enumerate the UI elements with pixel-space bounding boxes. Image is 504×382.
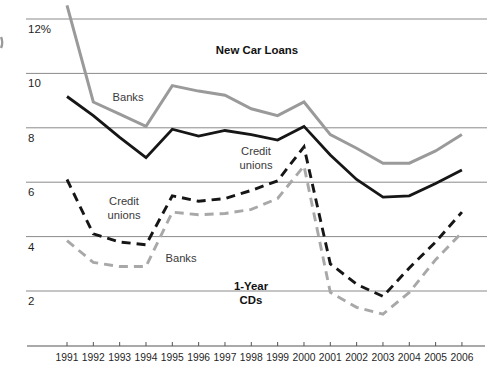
annotation-banks-new-car-label: Banks	[112, 91, 143, 103]
annotation-new-car-loans-title: New Car Loans	[216, 44, 298, 56]
scan-artifact	[1, 37, 2, 48]
year-label-2006: 2006	[450, 352, 473, 363]
y-axis-label-6: 6	[28, 186, 34, 198]
year-label-1992: 1992	[82, 352, 105, 363]
year-label-2005: 2005	[424, 352, 447, 363]
y-axis-label-4: 4	[28, 241, 35, 253]
annotation-credit-unions-new-car-label: Creditunions	[240, 145, 273, 171]
annotation-banks-cd-label: Banks	[165, 252, 196, 264]
year-label-1994: 1994	[135, 352, 158, 363]
interest-rates-figure: 12%1086421991199219931994199519961997199…	[0, 0, 504, 382]
y-axis-label-12: 12%	[28, 23, 51, 35]
year-label-2004: 2004	[398, 352, 421, 363]
series-line-new-car-loans-banks	[67, 5, 462, 163]
year-label-2001: 2001	[319, 352, 342, 363]
year-label-2000: 2000	[293, 352, 316, 363]
interest-rate-line-chart: 12%1086421991199219931994199519961997199…	[0, 0, 504, 382]
year-label-1991: 1991	[56, 352, 79, 363]
annotation-credit-unions-cd-label: Creditunions	[108, 195, 141, 221]
year-label-2003: 2003	[371, 352, 394, 363]
year-label-2002: 2002	[345, 352, 368, 363]
y-axis-label-10: 10	[28, 77, 41, 89]
year-label-1997: 1997	[214, 352, 237, 363]
year-label-1993: 1993	[108, 352, 131, 363]
year-label-1999: 1999	[266, 352, 289, 363]
y-axis-label-8: 8	[28, 132, 34, 144]
y-axis-label-2: 2	[28, 295, 34, 307]
year-label-1995: 1995	[161, 352, 184, 363]
annotation-one-year-cds-title: 1-YearCDs	[234, 280, 269, 306]
year-label-1998: 1998	[240, 352, 263, 363]
year-label-1996: 1996	[187, 352, 210, 363]
